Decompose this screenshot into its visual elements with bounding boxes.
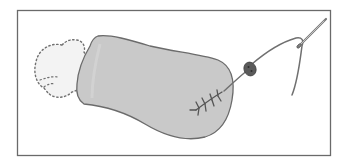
sewing-illustration — [0, 0, 351, 166]
fabric-tube — [77, 36, 233, 139]
button-icon — [242, 60, 258, 77]
needle-icon — [296, 19, 326, 49]
thread-icon — [224, 38, 303, 95]
